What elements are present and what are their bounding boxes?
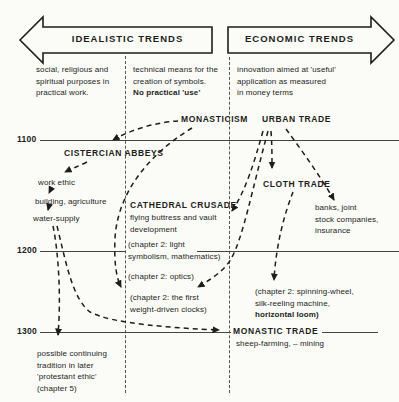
arrow-urban-to-cathedral xyxy=(232,131,263,211)
arrow-cloth-to-spinning xyxy=(274,192,293,280)
economic-principle-text: innovation aimed at 'useful' application… xyxy=(237,64,336,99)
monastic-trade-sub: sheep-farming, – mining xyxy=(236,338,324,350)
note-chapter2-spinning: (chapter 2: spinning-wheel, silk-reeling… xyxy=(255,286,354,321)
node-cloth-trade: CLOTH TRADE xyxy=(263,179,331,189)
note-protestant-ethic: possible continuing tradition in later '… xyxy=(37,348,107,394)
node-work-ethic: work ethic xyxy=(38,177,75,189)
node-monastic-trade: MONASTIC TRADE xyxy=(233,326,318,336)
node-banks: banks, joint stock companies, insurance xyxy=(315,202,378,237)
note-chapter2-clocks: (chapter 2: the first weight-driven cloc… xyxy=(130,292,207,315)
year-1300-label: 1300 xyxy=(17,326,37,336)
arrow-monasticism-to-cistercian xyxy=(113,121,178,140)
node-water-supply: water-supply xyxy=(33,213,80,225)
idealistic-social-text: social, religious and spiritual purposes… xyxy=(36,64,109,99)
note-chapter2-light: (chapter 2: light symbolism, mathematics… xyxy=(128,239,221,262)
idealistic-trends-banner: IDEALISTIC TRENDS xyxy=(43,33,212,44)
node-urban-trade: URBAN TRADE xyxy=(262,114,331,124)
arrow-urban-to-banks xyxy=(286,129,334,200)
idealistic-technical-text: technical means for the creation of symb… xyxy=(133,64,218,99)
cathedral-crusade-sub: flying buttress and vault development xyxy=(130,212,217,235)
arrow-cistercian-to-work-ethic xyxy=(65,162,87,172)
node-building-agriculture: building, agriculture xyxy=(35,196,106,208)
economic-trends-banner: ECONOMIC TRENDS xyxy=(228,33,371,44)
node-cistercian-abbeys: CISTERCIAN ABBEYS xyxy=(64,148,164,158)
arrow-urban-to-cloth xyxy=(271,131,272,168)
year-1200-label: 1200 xyxy=(17,245,37,255)
note-chapter2-optics: (chapter 2: optics) xyxy=(128,271,194,283)
trends-diagram: IDEALISTIC TRENDS ECONOMIC TRENDS social… xyxy=(0,0,399,402)
arrow-water-to-protestant xyxy=(53,226,59,335)
year-1100-label: 1100 xyxy=(17,134,37,144)
node-cathedral-crusade: CATHEDRAL CRUSADE xyxy=(130,200,237,210)
node-monasticism: MONASTICISM xyxy=(181,114,248,124)
